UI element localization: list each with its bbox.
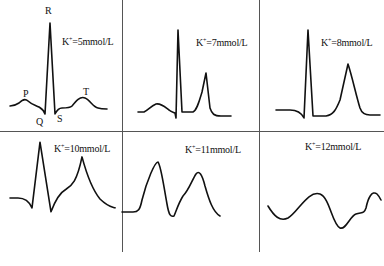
panel-k12: K+=12mmol/L	[260, 132, 384, 252]
ecg-trace-k8	[260, 0, 384, 131]
ecg-hyperkalemia-figure: K+=5mmol/L R P T Q S K+=7mmol/L K+=8mmol…	[0, 0, 384, 266]
panel-k10: K+=10mmol/L	[0, 132, 122, 252]
ecg-trace-k7	[123, 0, 259, 131]
panel-k7: K+=7mmol/L	[123, 0, 259, 131]
panel-k11: K+=11mmol/L	[123, 132, 259, 252]
panel-k5: K+=5mmol/L R P T Q S	[0, 0, 122, 131]
panel-k8: K+=8mmol/L	[260, 0, 384, 131]
figure-caption-cropped	[130, 256, 260, 266]
ecg-trace-k10	[0, 132, 122, 252]
ecg-trace-k5	[0, 0, 122, 131]
ecg-trace-k11	[123, 132, 259, 252]
ecg-trace-k12	[260, 132, 384, 252]
